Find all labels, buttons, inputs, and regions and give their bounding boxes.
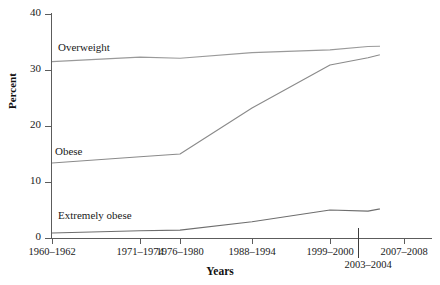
x-tick-label-0: 1960–1962 <box>28 246 75 257</box>
x-tick-label-3: 1988–1994 <box>228 246 275 257</box>
y-tick-label-30: 30 <box>30 62 41 74</box>
y-tick-40: 40 <box>45 14 51 15</box>
y-tick-label-0: 0 <box>36 230 42 242</box>
x-tick-2 <box>180 239 181 244</box>
x-tick-label-4: 1999–2000 <box>306 246 353 257</box>
y-axis-title: Percent <box>6 73 18 109</box>
series-label-extremely-obese: Extremely obese <box>58 209 132 221</box>
y-tick-30: 30 <box>45 70 51 71</box>
x-tick-label-2: 1976–1980 <box>156 246 203 257</box>
series-line-obese <box>52 49 380 163</box>
x-tick-1 <box>140 239 141 244</box>
x-tick-6 <box>404 239 405 244</box>
x-tick-0 <box>52 239 53 244</box>
y-tick-label-10: 10 <box>30 174 41 186</box>
y-tick-0: 0 <box>45 238 51 239</box>
y-tick-20: 20 <box>45 126 51 127</box>
x-tick-label-6: 2007–2008 <box>380 246 427 257</box>
x-tick-3 <box>252 239 253 244</box>
series-label-obese: Obese <box>55 145 83 157</box>
x-axis-title: Years <box>0 265 440 277</box>
y-tick-10: 10 <box>45 182 51 183</box>
x-tick-4 <box>330 239 331 244</box>
series-label-overweight: Overweight <box>58 41 110 53</box>
x-axis-line <box>51 238 432 239</box>
y-tick-label-20: 20 <box>30 118 41 130</box>
y-tick-label-40: 40 <box>30 6 41 18</box>
obesity-trend-chart: 403020100 1960–19621971–19741976–1980198… <box>0 0 440 285</box>
